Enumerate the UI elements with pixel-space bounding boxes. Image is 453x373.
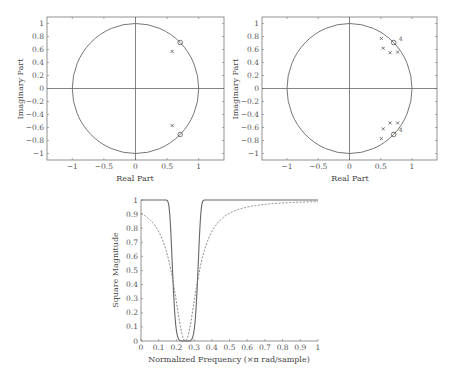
plot2-ylabel: Imaginary Part [231, 58, 240, 120]
plot1-ylabel: Imaginary Part [16, 58, 25, 120]
y-tick-label: 0.4 [126, 280, 138, 289]
x-tick-label: 1 [410, 162, 415, 171]
figure: −1−0.500.51−1−0.8−0.6−0.4−0.200.20.40.60… [0, 0, 453, 373]
plot3-ylabel: Square Magnitude [111, 232, 120, 308]
y-tick-label: 0.8 [247, 32, 259, 41]
x-tick-label: −0.5 [95, 162, 113, 171]
y-tick-label: −0.2 [241, 97, 259, 106]
y-tick-label: −0.8 [241, 136, 259, 145]
x-tick-label: 0.1 [153, 343, 165, 352]
pole-marker [396, 51, 399, 54]
y-tick-label: 0.9 [126, 210, 138, 219]
y-tick-label: 0.6 [32, 45, 44, 54]
y-tick-label: −0.6 [26, 123, 44, 132]
multiplicity-label: 4 [399, 126, 403, 133]
x-tick-label: 0.5 [224, 343, 236, 352]
y-tick-label: −1 [248, 149, 259, 158]
y-tick-label: 0 [254, 84, 259, 93]
y-tick-label: 1 [39, 19, 44, 28]
y-tick-label: −0.6 [241, 123, 259, 132]
x-tick-label: 0 [347, 162, 352, 171]
pole-marker [382, 127, 385, 130]
y-tick-label: 1 [254, 19, 259, 28]
pole-marker [382, 47, 385, 50]
magnitude-response-plot: 00.10.20.30.40.50.60.70.80.9100.10.20.30… [126, 196, 320, 353]
y-tick-label: −1 [33, 149, 44, 158]
y-tick-label: 1 [133, 196, 138, 205]
y-tick-label: 0.2 [32, 71, 44, 80]
x-tick-label: 0 [133, 162, 138, 171]
multiplicity-label: 4 [399, 35, 403, 42]
x-tick-label: 0.2 [170, 343, 182, 352]
x-tick-label: 0.5 [375, 162, 387, 171]
y-tick-label: 0.3 [126, 294, 138, 303]
plot2-xlabel: Real Part [331, 174, 369, 183]
y-tick-label: 0.8 [32, 32, 44, 41]
y-tick-label: 0.4 [247, 58, 259, 67]
y-tick-label: 0.2 [126, 308, 138, 317]
x-tick-label: 0.6 [241, 343, 253, 352]
y-tick-label: 0.1 [126, 322, 138, 331]
x-tick-label: 0.4 [206, 343, 218, 352]
y-tick-label: −0.4 [241, 110, 259, 119]
y-tick-label: 0 [133, 337, 138, 346]
pole-marker [380, 137, 383, 140]
y-tick-label: 0.5 [126, 266, 138, 275]
x-tick-label: 1 [316, 343, 321, 352]
pole-marker [171, 50, 174, 53]
pole-marker [389, 51, 392, 54]
pole-zero-plot-2: −1−0.500.51−1−0.8−0.6−0.4−0.200.20.40.60… [241, 17, 437, 171]
x-tick-label: 1 [196, 162, 201, 171]
pole-marker [389, 121, 392, 124]
x-tick-label: −1 [281, 162, 292, 171]
y-tick-label: −0.8 [26, 136, 44, 145]
y-tick-label: 0.6 [247, 45, 259, 54]
y-tick-label: 0.4 [32, 58, 44, 67]
y-tick-label: 0.7 [126, 238, 138, 247]
pole-marker [380, 37, 383, 40]
x-tick-label: 0 [139, 343, 144, 352]
x-tick-label: 0.7 [259, 343, 271, 352]
pole-zero-plot-1: −1−0.500.51−1−0.8−0.6−0.4−0.200.20.40.60… [26, 17, 224, 171]
pole-marker [171, 124, 174, 127]
y-tick-label: 0.2 [247, 71, 259, 80]
x-tick-label: 0.3 [188, 343, 200, 352]
x-tick-label: 0.8 [277, 343, 289, 352]
y-tick-label: 0.6 [126, 252, 138, 261]
y-tick-label: −0.2 [26, 97, 44, 106]
y-tick-label: −0.4 [26, 110, 44, 119]
x-tick-label: −0.5 [309, 162, 327, 171]
dashed-response-curve [141, 202, 318, 341]
x-tick-label: 0.5 [161, 162, 173, 171]
plot3-xlabel: Normalized Frequency (×π rad/sample) [148, 355, 310, 364]
x-tick-label: −1 [67, 162, 78, 171]
y-tick-label: 0 [39, 84, 44, 93]
solid-response-curve [141, 200, 318, 341]
plot1-xlabel: Real Part [116, 174, 154, 183]
y-tick-label: 0.8 [126, 224, 138, 233]
pole-marker [396, 121, 399, 124]
x-tick-label: 0.9 [294, 343, 306, 352]
